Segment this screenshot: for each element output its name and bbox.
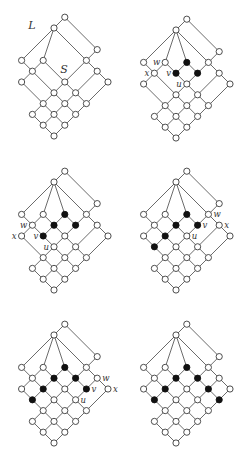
node-label-v: v — [91, 384, 96, 394]
lattice-node-filled — [73, 222, 79, 228]
lattice-node — [51, 418, 57, 424]
lattice-node-filled — [51, 375, 57, 381]
lattice-node-filled — [184, 364, 190, 370]
lattice-node — [162, 364, 168, 370]
lattice-edge — [176, 335, 208, 367]
lattice-edge — [208, 84, 230, 106]
lattice-node — [205, 255, 211, 261]
lattice-node — [19, 233, 25, 239]
lattice-edge — [54, 182, 86, 214]
lattice-node-filled — [173, 222, 179, 228]
lattice-node — [216, 49, 222, 55]
lattice-node — [83, 408, 89, 414]
lattice-node — [173, 418, 179, 424]
lattice-node — [184, 124, 190, 130]
lattice-node-filled — [173, 375, 179, 381]
lattice-edge — [54, 335, 86, 367]
region-label-S: S — [60, 63, 68, 76]
lattice-node — [184, 429, 190, 435]
lattice-node — [184, 16, 190, 22]
lattice-node — [205, 103, 211, 109]
lattice-node — [51, 397, 57, 403]
lattice-node — [94, 222, 100, 228]
lattice-node — [29, 418, 35, 424]
lattice-node — [195, 113, 201, 119]
lattice-node — [173, 179, 179, 185]
lattice-node — [151, 375, 157, 381]
lattice-node — [83, 211, 89, 217]
lattice-node — [62, 168, 68, 174]
lattice-node — [184, 276, 190, 282]
node-label-w: w — [20, 220, 28, 230]
lattice-node-filled — [40, 233, 46, 239]
hasse-diagram-2: wxvu — [141, 16, 234, 141]
lattice-node — [162, 429, 168, 435]
lattice-node — [216, 375, 222, 381]
lattice-node-filled — [184, 211, 190, 217]
lattice-node — [151, 222, 157, 228]
hasse-diagram-1: LS — [19, 14, 112, 139]
lattice-node — [94, 354, 100, 360]
node-label-u: u — [81, 395, 86, 405]
lattice-node — [51, 287, 57, 293]
lattice-edge — [22, 335, 54, 367]
lattice-node — [227, 81, 233, 87]
lattice-node-filled — [184, 59, 190, 65]
lattice-edge — [144, 182, 176, 214]
lattice-node — [29, 111, 35, 117]
lattice-node — [73, 418, 79, 424]
lattice-node — [83, 364, 89, 370]
lattice-edge — [22, 82, 44, 104]
lattice-node — [173, 332, 179, 338]
lattice-edge — [208, 236, 230, 258]
node-label-v: v — [166, 68, 171, 78]
lattice-node — [216, 222, 222, 228]
lattice-edge — [198, 225, 220, 247]
lattice-node — [51, 133, 57, 139]
lattice-node — [19, 57, 25, 63]
lattice-node — [29, 265, 35, 271]
lattice-node-filled — [162, 233, 168, 239]
lattice-node — [51, 332, 57, 338]
lattice-node — [216, 70, 222, 76]
lattice-node — [151, 113, 157, 119]
node-label-u: u — [44, 242, 49, 252]
lattice-node-filled — [162, 386, 168, 392]
lattice-edge — [144, 84, 166, 106]
lattice-node — [184, 233, 190, 239]
nodes — [19, 14, 112, 139]
lattice-node — [205, 364, 211, 370]
lattice-node — [73, 90, 79, 96]
lattice-figure: LSwxvuwxvuwvxuwvxu — [0, 0, 249, 465]
node-label-v: v — [33, 231, 38, 241]
lattice-node — [94, 47, 100, 53]
lattice-node — [184, 321, 190, 327]
lattice-node — [73, 244, 79, 250]
lattice-node — [62, 79, 68, 85]
lattice-edge — [187, 171, 219, 203]
lattice-node — [162, 408, 168, 414]
lattice-node — [173, 287, 179, 293]
hasse-diagram-4: wvxu — [141, 168, 234, 293]
lattice-node — [73, 111, 79, 117]
lattice-edge — [154, 73, 176, 95]
lattice-node-filled — [83, 386, 89, 392]
lattice-node — [83, 57, 89, 63]
lattice-node — [19, 364, 25, 370]
lattice-edge — [198, 73, 220, 95]
lattice-node — [29, 375, 35, 381]
lattice-node — [205, 211, 211, 217]
lattice-node — [173, 113, 179, 119]
node-label-x: x — [113, 384, 118, 394]
lattice-node — [73, 265, 79, 271]
lattice-node — [141, 233, 147, 239]
lattice-node — [19, 79, 25, 85]
lattice-node — [40, 101, 46, 107]
lattice-node — [62, 122, 68, 128]
lattice-node — [94, 68, 100, 74]
lattice-node-filled — [73, 375, 79, 381]
lattice-node — [62, 386, 68, 392]
lattice-edge — [176, 30, 208, 62]
lattice-node-filled — [51, 222, 57, 228]
lattice-node — [19, 386, 25, 392]
